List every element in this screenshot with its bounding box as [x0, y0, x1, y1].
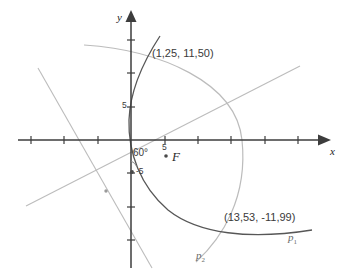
angle-label-60: 60° [133, 148, 148, 158]
math-figure: y x 5 5 -5 60° F (1,25, 11,50) (13,53, -… [0, 0, 344, 280]
curve-p2 [84, 45, 243, 262]
y-axis-label: y [117, 12, 122, 23]
focus-point [164, 154, 168, 158]
y-tick-label-5: 5 [122, 101, 127, 110]
curve-label-p1: p1 [288, 232, 297, 246]
curve-label-p1-sub: 1 [294, 238, 298, 246]
axis-line-60deg [26, 66, 300, 206]
focus-label: F [172, 150, 180, 163]
y-tick-label-minus-5: -5 [136, 167, 144, 176]
curve-label-p2-sub: 2 [202, 256, 206, 264]
point-label-upper: (1,25, 11,50) [152, 48, 214, 59]
vertex-point [130, 170, 134, 174]
curve-p1 [129, 36, 312, 235]
y-axis-arrowhead [126, 10, 137, 22]
intersection-point [104, 189, 107, 192]
point-label-lower: (13,53, -11,99) [224, 212, 295, 223]
x-axis-arrowhead [318, 135, 331, 146]
directrix-line [38, 68, 152, 268]
x-tick-label-5: 5 [162, 143, 167, 152]
x-axis-label: x [330, 146, 335, 157]
curve-label-p2: p2 [196, 250, 205, 264]
